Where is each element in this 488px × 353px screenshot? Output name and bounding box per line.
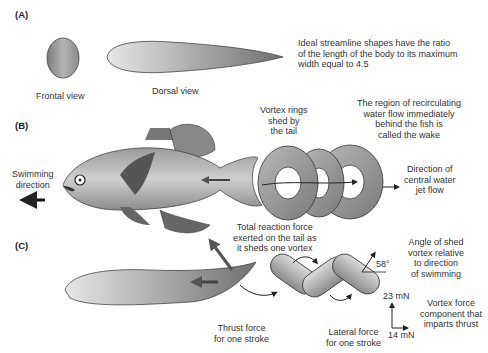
wake-label: The region of recirculating water flow i… — [357, 98, 461, 140]
lateral-force-label: Lateral force for one stroke — [326, 327, 381, 348]
vortex-component-label: Vortex force component that imparts thru… — [420, 298, 482, 330]
force-horizontal-value: 14 mN — [388, 330, 415, 341]
dorsal-fish-shape — [65, 262, 256, 305]
reaction-force-label: Total reaction force exerted on the tail… — [233, 222, 317, 254]
reaction-force-arrow — [212, 243, 232, 270]
jet-flow-label: Direction of central water jet flow — [404, 164, 456, 196]
panel-c-label: (C) — [15, 240, 28, 251]
frontal-view-label: Frontal view — [36, 91, 85, 102]
dorsal-view-label: Dorsal view — [152, 86, 199, 97]
force-vertical-value: 23 mN — [383, 291, 410, 302]
fish-illustration — [63, 124, 262, 233]
dorsal-view-shape — [107, 41, 283, 72]
streamline-note: Ideal streamline shapes have the ratio o… — [298, 38, 458, 70]
vortex-rings-label: Vortex rings shed by the tail — [260, 105, 308, 137]
frontal-view-shape — [47, 38, 79, 78]
thrust-force-label: Thrust force for one stroke — [214, 323, 269, 344]
panel-b-label: (B) — [15, 120, 28, 131]
vortex-rings — [258, 145, 383, 220]
swimming-direction-label: Swimming direction — [12, 169, 54, 190]
angle-note: Angle of shed vortex relative to directi… — [408, 237, 464, 279]
panel-a-label: (A) — [15, 9, 28, 20]
vortex-chain — [240, 249, 384, 301]
angle-value: 58° — [376, 259, 390, 270]
